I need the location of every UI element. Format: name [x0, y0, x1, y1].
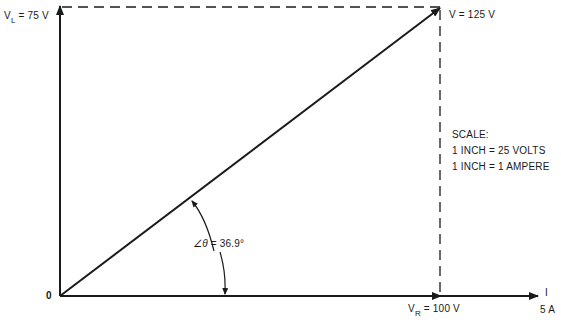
vl-value: = 75 V [19, 10, 49, 21]
angle-label: ∠θ = 36.9° [193, 238, 244, 249]
scale-legend: SCALE: 1 INCH = 25 VOLTS 1 INCH = 1 AMPE… [452, 127, 550, 175]
current-symbol: I [545, 287, 548, 298]
vr-label: VR = 100 V [408, 303, 460, 314]
scale-line-ampere: 1 INCH = 1 AMPERE [452, 159, 550, 175]
vr-symbol: V [408, 303, 415, 314]
angle-arc-lower [220, 252, 225, 294]
scale-line-volts: 1 INCH = 25 VOLTS [452, 143, 550, 159]
v-resultant-arrow [60, 8, 440, 296]
angle-symbol: ∠θ [193, 238, 208, 249]
vr-subscript: R [415, 309, 421, 318]
angle-value: = 36.9° [211, 238, 244, 249]
vl-subscript: L [11, 16, 16, 25]
vr-value: = 100 V [424, 303, 460, 314]
scale-title: SCALE: [452, 127, 550, 143]
current-value: 5 A [540, 304, 555, 315]
vl-label: VL = 75 V [4, 10, 49, 21]
v-resultant-label: V = 125 V [449, 9, 495, 20]
origin-label: 0 [46, 290, 52, 301]
vl-symbol: V [4, 10, 11, 21]
